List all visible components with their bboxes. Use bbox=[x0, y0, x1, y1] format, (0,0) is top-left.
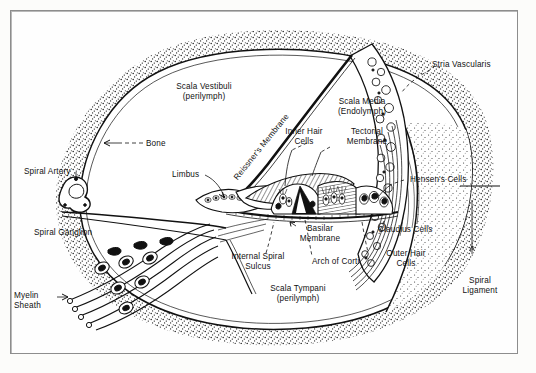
label-stria-vascularis: Stria Vascularis bbox=[432, 60, 524, 70]
label-outer-hair-cells: Outer Hair Cells bbox=[378, 249, 434, 268]
label-scala-tympani: Scala Tympani (perilymph) bbox=[256, 284, 340, 303]
label-tectorial-membrane: Tectorial Membrane bbox=[336, 127, 398, 146]
label-spiral-artery: Spiral Artery bbox=[24, 167, 98, 177]
label-myelin-sheath: Myelin Sheath bbox=[14, 291, 60, 310]
label-internal-spiral-sulcus: Internal Spiral Sulcus bbox=[216, 252, 300, 271]
label-inner-hair-cells: Inner Hair Cells bbox=[276, 127, 332, 146]
label-arch-of-corti: Arch of Corti bbox=[312, 257, 380, 267]
label-hensens-cells: Hensen's Cells bbox=[410, 175, 494, 185]
label-bone: Bone bbox=[146, 139, 186, 149]
label-spiral-ganglion: Spiral Ganglion bbox=[34, 228, 122, 238]
label-basilar-membrane: Basilar Membrane bbox=[290, 224, 350, 243]
label-spiral-ligament: Spiral Ligament bbox=[452, 276, 508, 295]
figure-canvas: Scala Vestibuli (perilymph) Bone Spiral … bbox=[0, 0, 536, 373]
label-limbus: Limbus bbox=[172, 170, 216, 180]
label-scala-vestibuli: Scala Vestibuli (perilymph) bbox=[162, 82, 246, 101]
label-scala-media: Scala Media (Endolymph) bbox=[320, 97, 404, 116]
label-claudius-cells: Claudius Cells bbox=[378, 225, 458, 235]
cochlea-cross-section-illustration bbox=[0, 0, 536, 373]
